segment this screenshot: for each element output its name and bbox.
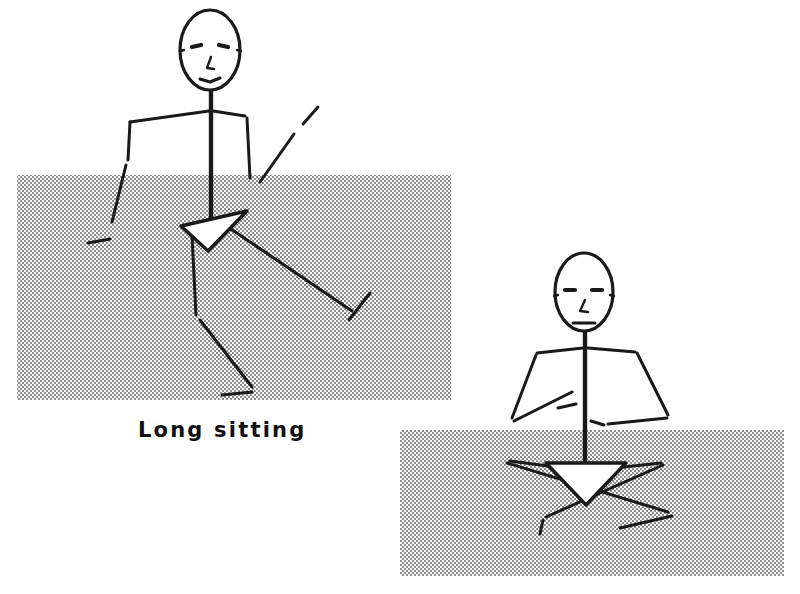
upper-arm-left — [128, 122, 130, 160]
figure-cross-legged-sitting-ear-left — [554, 295, 558, 296]
shoulder-line-right — [588, 348, 635, 352]
figure-long-sitting-ear-right — [237, 50, 241, 51]
caption-long-sitting: Long sitting — [138, 419, 306, 441]
forearm-right — [260, 134, 294, 182]
hand-left — [558, 404, 576, 408]
arm-outer-right — [637, 353, 668, 415]
figure-long-sitting-eye-right — [219, 45, 228, 47]
hand-right — [591, 421, 604, 425]
arm-outer-left — [512, 355, 536, 418]
floor-panel-right — [400, 430, 784, 576]
figure-cross-legged-sitting-head — [555, 253, 613, 331]
figure-long-sitting-head — [180, 10, 240, 90]
drawing-surface — [0, 0, 800, 594]
shoulder-line-left — [130, 111, 209, 122]
figure-long-sitting-ear-left — [180, 50, 184, 51]
shoulder-line-right — [213, 111, 245, 116]
illustration-canvas: Long sitting — [0, 0, 800, 594]
arm-inner-right — [608, 418, 667, 424]
figure-long-sitting-eye-left — [192, 45, 201, 47]
shoulder-line-left — [537, 348, 583, 353]
hand-right — [303, 107, 318, 124]
figure-cross-legged-sitting-ear-right — [610, 295, 614, 296]
upper-arm-right — [247, 118, 250, 178]
